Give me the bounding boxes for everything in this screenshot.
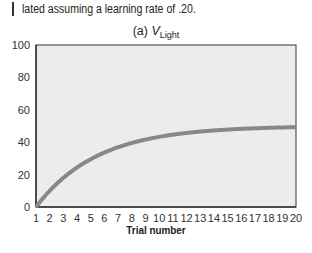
y-tick-label: 100 [12,39,30,51]
x-tick-label: 2 [47,212,53,224]
x-tick-label: 9 [142,212,148,224]
x-tick-label: 14 [208,212,220,224]
y-tick-label: 0 [24,201,30,213]
x-tick-label: 19 [276,212,288,224]
plot-area [36,45,296,207]
x-tick-label: 1 [33,212,39,224]
x-tick-label: 16 [235,212,247,224]
x-tick-label: 5 [88,212,94,224]
x-tick-label: 15 [221,212,233,224]
x-tick-label: 18 [263,212,275,224]
y-tick-label: 60 [18,104,30,116]
x-tick-label: 6 [101,212,107,224]
x-tick-label: 7 [115,212,121,224]
x-tick-label: 17 [249,212,261,224]
y-tick-label: 20 [18,169,30,181]
x-tick-label: 10 [153,212,165,224]
x-tick-label: 11 [167,212,178,224]
x-tick-label: 3 [60,212,66,224]
x-tick-label: 12 [180,212,192,224]
x-tick-label: 13 [194,212,206,224]
line-chart: 0204060801001234567891011121314151617181… [0,0,312,253]
y-tick-label: 80 [18,71,30,83]
x-axis-label: Trial number [16,224,297,236]
y-tick-label: 40 [18,136,30,148]
x-tick-label: 20 [290,212,302,224]
x-tick-label: 8 [129,212,135,224]
x-tick-label: 4 [74,212,80,224]
